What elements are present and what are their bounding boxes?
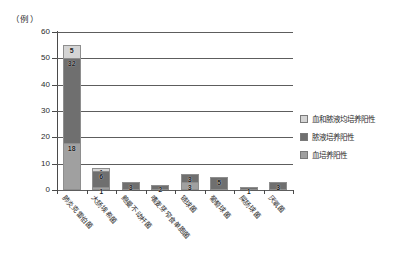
bar-value-label: 18 bbox=[68, 144, 76, 153]
bar-group[interactable]: 1 bbox=[240, 187, 258, 190]
y-axis-unit-label: （例） bbox=[11, 12, 39, 24]
bar-segment[interactable]: 5 bbox=[63, 45, 81, 58]
bar-group[interactable]: 161 bbox=[92, 168, 110, 190]
x-tick-mark-4 bbox=[175, 190, 176, 194]
x-axis-label: 厌氧菌 bbox=[266, 194, 286, 215]
x-tick-mark-3 bbox=[146, 190, 147, 194]
bar-value-label: 6 bbox=[99, 172, 103, 181]
x-tick-mark-7 bbox=[264, 190, 265, 194]
x-tick-mark-2 bbox=[116, 190, 117, 194]
y-tick-label-60: 60 bbox=[24, 28, 50, 36]
bar-value-label: 3 bbox=[129, 183, 133, 192]
bar-group[interactable]: 3 bbox=[122, 182, 140, 190]
x-tick-mark-5 bbox=[205, 190, 206, 194]
x-tick-mark-8 bbox=[293, 190, 294, 194]
chart-legend: 血和脓液均培养阳性脓液培养阳性血培养阳性 bbox=[300, 114, 406, 168]
x-axis-label: 大肠埃希菌 bbox=[89, 194, 118, 225]
bar-segment[interactable]: 5 bbox=[210, 177, 228, 190]
bar-group[interactable]: 5 bbox=[210, 177, 228, 190]
x-axis-label: 屎肠球菌 bbox=[237, 194, 262, 220]
x-tick-mark-0 bbox=[57, 190, 58, 194]
y-tick-label-0: 0 bbox=[24, 186, 50, 194]
bar-value-label: 5 bbox=[70, 46, 74, 55]
x-tick-mark-1 bbox=[87, 190, 88, 194]
bar-group[interactable]: 2 bbox=[151, 185, 169, 190]
bar-segment[interactable]: 1 bbox=[92, 187, 110, 190]
legend-item[interactable]: 血培养阳性 bbox=[300, 150, 406, 160]
bar-segment[interactable]: 3 bbox=[181, 182, 199, 190]
y-tick-label-50: 50 bbox=[24, 54, 50, 62]
bar-segment[interactable]: 6 bbox=[92, 171, 110, 187]
legend-label: 血培养阳性 bbox=[312, 151, 347, 160]
legend-swatch-icon bbox=[300, 151, 308, 159]
bar-segment[interactable]: 3 bbox=[122, 182, 140, 190]
x-tick-mark-6 bbox=[234, 190, 235, 194]
bar-group[interactable]: 53218 bbox=[63, 45, 81, 190]
bar-value-label: 3 bbox=[276, 183, 280, 192]
bar-segment[interactable]: 1 bbox=[240, 187, 258, 190]
legend-item[interactable]: 血和脓液均培养阳性 bbox=[300, 114, 406, 124]
bar-segment[interactable]: 3 bbox=[181, 174, 199, 182]
legend-label: 脓液培养阳性 bbox=[312, 133, 354, 142]
legend-swatch-icon bbox=[300, 115, 308, 123]
legend-swatch-icon bbox=[300, 133, 308, 141]
x-axis-label: 链球菌 bbox=[178, 194, 198, 215]
y-tick-label-20: 20 bbox=[24, 133, 50, 141]
y-tick-label-10: 10 bbox=[24, 160, 50, 168]
bar-value-label: 2 bbox=[158, 186, 162, 194]
bar-segment[interactable]: 2 bbox=[151, 185, 169, 190]
y-tick-label-30: 30 bbox=[24, 107, 50, 115]
legend-item[interactable]: 脓液培养阳性 bbox=[300, 132, 406, 142]
bar-segment[interactable]: 3 bbox=[269, 182, 287, 190]
bar-segment[interactable]: 32 bbox=[63, 58, 81, 142]
bar-value-label: 5 bbox=[217, 178, 221, 187]
bar-value-label: 3 bbox=[188, 183, 192, 192]
bar-value-label: 32 bbox=[68, 59, 76, 68]
bar-group[interactable]: 3 bbox=[269, 182, 287, 190]
bar-group[interactable]: 33 bbox=[181, 174, 199, 190]
bar-value-label: 1 bbox=[247, 188, 251, 196]
y-tick-label-40: 40 bbox=[24, 81, 50, 89]
bar-layer: 532181613233513 bbox=[57, 32, 293, 190]
bar-segment[interactable]: 18 bbox=[63, 143, 81, 190]
bar-value-label: 1 bbox=[99, 188, 103, 196]
x-axis-label: 葡萄球菌 bbox=[207, 194, 232, 220]
legend-label: 血和脓液均培养阳性 bbox=[312, 115, 375, 124]
